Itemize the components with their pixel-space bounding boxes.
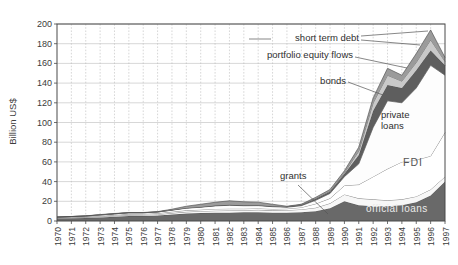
- x-tick-label: 1974: [110, 227, 120, 246]
- y-axis-title: Billion US$: [7, 87, 18, 157]
- x-tick-label: 1977: [153, 227, 163, 246]
- flows-chart: 0204060801001201401601802001970197119721…: [0, 0, 458, 265]
- y-tick-label: 180: [37, 39, 52, 49]
- y-tick-label: 160: [37, 58, 52, 68]
- annotation-short-term-debt: short term debt: [295, 33, 359, 44]
- y-tick-label: 100: [37, 118, 52, 128]
- x-tick-label: 1987: [297, 227, 307, 246]
- x-tick-label: 1996: [426, 227, 436, 246]
- y-tick-label: 60: [42, 157, 52, 167]
- y-tick-label: 0: [47, 216, 52, 226]
- y-tick-label: 140: [37, 78, 52, 88]
- x-tick-label: 1989: [326, 227, 336, 246]
- annotation-portfolio-equity-flows: portfolio equity flows: [267, 50, 353, 61]
- x-tick-label: 1981: [211, 227, 221, 246]
- x-tick-label: 1975: [124, 227, 134, 246]
- x-tick-label: 1970: [53, 227, 63, 246]
- x-tick-label: 1973: [96, 227, 106, 246]
- figure: 0204060801001201401601802001970197119721…: [0, 0, 458, 265]
- y-tick-label: 120: [37, 98, 52, 108]
- x-tick-label: 1979: [182, 227, 192, 246]
- x-tick-label: 1986: [282, 227, 292, 246]
- annotation-private-loans: private loans: [381, 110, 427, 132]
- x-tick-label: 1984: [254, 227, 264, 246]
- x-tick-label: 1997: [441, 227, 451, 246]
- x-tick-label: 1978: [167, 227, 177, 246]
- x-tick-label: 1982: [225, 227, 235, 246]
- x-tick-label: 1990: [340, 227, 350, 246]
- x-tick-label: 1993: [383, 227, 393, 246]
- x-tick-label: 1980: [196, 227, 206, 246]
- x-tick-label: 1971: [67, 227, 77, 246]
- x-tick-label: 1992: [369, 227, 379, 246]
- x-tick-label: 1994: [397, 227, 407, 246]
- x-tick-label: 1995: [412, 227, 422, 246]
- annotation-fdi: FDI: [403, 156, 423, 168]
- y-tick-label: 80: [42, 137, 52, 147]
- y-tick-label: 200: [37, 19, 52, 29]
- x-tick-label: 1983: [239, 227, 249, 246]
- y-tick-label: 40: [42, 177, 52, 187]
- x-tick-label: 1976: [139, 227, 149, 246]
- annotation-bonds: bonds: [320, 76, 346, 87]
- annotation-official-loans: official loans: [366, 203, 428, 215]
- x-tick-label: 1972: [81, 227, 91, 246]
- x-tick-label: 1991: [354, 227, 364, 246]
- x-tick-label: 1988: [311, 227, 321, 246]
- x-tick-label: 1985: [268, 227, 278, 246]
- y-tick-label: 20: [42, 196, 52, 206]
- annotation-grants: grants: [280, 171, 306, 182]
